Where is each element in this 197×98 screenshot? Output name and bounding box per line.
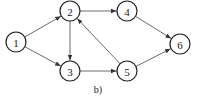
directed-graph: 123456 b) [0,0,197,98]
edge-1-to-2 [25,16,61,37]
edge-5-to-2 [77,19,120,64]
edge-4-to-6 [135,16,171,38]
node-5: 5 [117,61,137,81]
edges-layer [25,11,171,71]
node-label: 6 [177,39,183,51]
node-2: 2 [60,1,80,21]
figure-caption: b) [94,84,102,96]
node-4: 4 [117,1,137,21]
node-3: 3 [60,61,80,81]
node-6: 6 [170,34,190,54]
edge-5-to-6 [136,49,171,67]
node-1: 1 [6,32,26,52]
node-label: 4 [124,6,130,18]
node-label: 5 [124,66,130,78]
node-label: 1 [13,37,19,49]
edge-1-to-3 [25,47,61,66]
node-label: 2 [67,6,73,18]
node-label: 3 [67,66,73,78]
